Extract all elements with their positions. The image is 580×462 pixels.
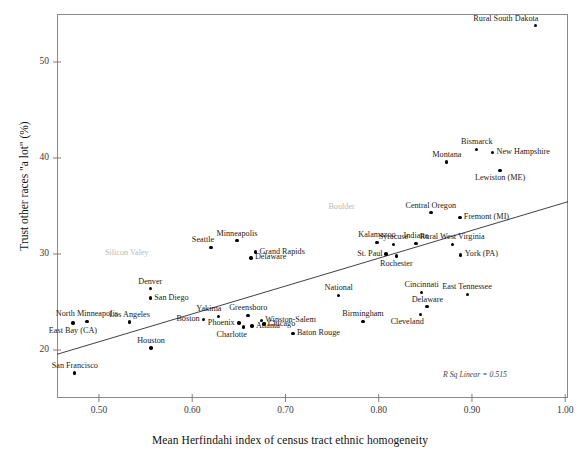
data-point [250,324,253,327]
point-label: Bismarck [461,138,492,146]
point-label: East Bay (CA) [49,327,97,335]
data-point [384,252,387,255]
point-label: Central Oregon [405,202,456,210]
y-tick-label: 20 [23,344,49,354]
x-tick-label: 0.60 [172,405,212,415]
data-point [466,293,469,296]
point-label: Boston [176,315,199,323]
point-label: Birmingham [342,310,383,318]
data-point [414,242,417,245]
y-tick-label: 50 [23,56,49,66]
plot-area [57,14,568,398]
point-label: Atlanta [256,322,280,330]
data-point [249,256,252,259]
point-label: Charlotte [216,331,246,339]
point-label: San Diego [154,294,188,302]
data-point [149,296,152,299]
point-label: Denver [138,278,162,286]
point-label: Montana [432,151,461,159]
data-point [237,321,240,324]
point-label: Boulder [328,203,354,211]
data-point [361,320,364,323]
x-tick-label: 0.80 [359,405,399,415]
point-label: Delaware [412,296,443,304]
x-axis-title: Mean Herfindahi index of census tract et… [0,434,580,446]
point-label: Baton Rouge [297,329,340,337]
r-squared-annotation: R Sq Linear = 0.515 [443,370,507,379]
point-label: Rochester [380,260,413,268]
x-tick-label: 1.00 [545,405,580,415]
data-point [242,325,245,328]
point-label: East Tennessee [442,283,492,291]
point-label: Delaware [255,253,286,261]
point-label: Rural West Virginia [420,233,485,241]
point-label: Greensboro [229,304,267,312]
point-label: Fremont (MI) [464,213,509,221]
data-point [209,246,212,249]
point-label: York (PA) [465,250,498,258]
data-point [85,320,88,323]
data-point [458,216,461,219]
point-label: St. Paul [357,250,382,258]
data-point [498,169,501,172]
data-point [395,254,398,257]
point-label: Cincinnati [405,281,439,289]
x-tick-label: 0.50 [79,405,119,415]
point-label: Seattle [192,236,214,244]
x-tick-label: 0.70 [265,405,305,415]
point-label: Minneapolis [216,230,257,238]
x-tick-label: 0.90 [452,405,492,415]
point-label: Los Angeles [109,311,150,319]
data-point [71,321,74,324]
data-point [202,318,205,321]
data-point [235,239,238,242]
point-label: Rural South Dakota [473,15,538,23]
data-point [149,346,152,349]
point-label: New Hampshire [496,148,549,156]
point-label: Phoenix [208,319,235,327]
data-point [451,243,454,246]
point-label: National [325,284,353,292]
point-label: Yakima [196,305,221,313]
data-point [291,332,294,335]
point-label: Silicon Valey [105,249,149,257]
data-point [246,314,249,317]
point-label: Cleveland [391,318,424,326]
scatter-plot-figure: 20304050 0.500.600.700.800.901.00 Rural … [0,0,580,462]
data-point [491,151,494,154]
y-axis-title: Trust other races "a lot" (%) [18,66,30,306]
point-label: Houston [137,337,165,345]
point-label: Lewiston (ME) [475,174,525,182]
point-label: San Francisco [52,362,98,370]
